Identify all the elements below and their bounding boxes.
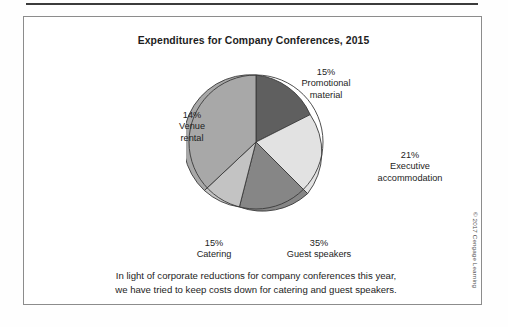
figure-caption-line-2: we have tried to keep costs down for cat… — [70, 283, 442, 297]
pie-label-catering-name-1: Catering — [166, 249, 262, 260]
pie-chart: 15% Promotional material 21% Executive a… — [24, 17, 483, 306]
pie-label-guest-name-1: Guest speakers — [256, 249, 382, 260]
pie-label-promotional-material: 15% Promotional material — [272, 67, 380, 101]
top-divider-rule — [26, 3, 478, 5]
pie-label-venue-rental: 14% Venue rental — [142, 110, 242, 144]
figure-caption: In light of corporate reductions for com… — [70, 269, 442, 297]
pie-label-guest-speakers: 35% Guest speakers — [256, 238, 382, 261]
pie-label-executive-name-1: Executive — [340, 161, 480, 172]
pie-label-executive-accommodation: 21% Executive accommodation — [340, 150, 480, 184]
pie-label-venue-percent: 14% — [142, 110, 242, 121]
pie-label-promotional-name-1: Promotional — [272, 78, 380, 89]
pie-label-executive-name-2: accommodation — [340, 173, 480, 184]
pie-label-venue-name-1: Venue — [142, 121, 242, 132]
pie-label-promotional-name-2: material — [272, 90, 380, 101]
figure-box: Expenditures for Company Conferences, 20… — [23, 16, 482, 305]
pie-label-venue-name-2: rental — [142, 133, 242, 144]
pie-label-executive-percent: 21% — [340, 150, 480, 161]
pie-label-guest-percent: 35% — [256, 238, 382, 249]
pie-label-catering: 15% Catering — [166, 238, 262, 261]
figure-page: Expenditures for Company Conferences, 20… — [0, 0, 508, 327]
figure-caption-line-1: In light of corporate reductions for com… — [70, 269, 442, 283]
pie-label-catering-percent: 15% — [166, 238, 262, 249]
pie-label-promotional-percent: 15% — [272, 67, 380, 78]
copyright-notice: © 2017 Cengage Learning — [472, 212, 479, 308]
